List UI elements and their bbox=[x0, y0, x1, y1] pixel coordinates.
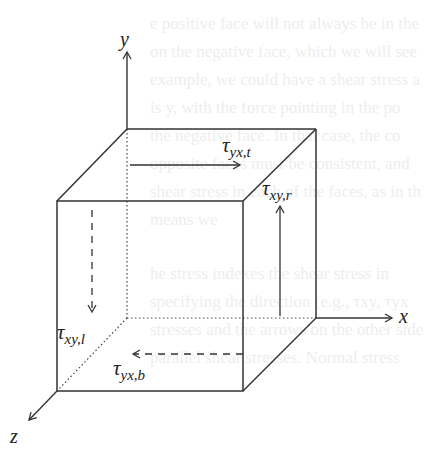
y-axis-label: y bbox=[120, 28, 129, 51]
stress-cube-diagram bbox=[0, 0, 430, 468]
tau-xy-r-label: τxy,r bbox=[262, 176, 292, 201]
x-axis-label: x bbox=[399, 305, 408, 328]
z-axis-label: z bbox=[10, 425, 18, 448]
axes bbox=[29, 52, 392, 420]
tau-yx-t-label: τyx,t bbox=[222, 133, 251, 158]
bottom-right-depth-edge bbox=[243, 318, 316, 391]
tau-yx-b-label: τyx,b bbox=[113, 356, 145, 381]
cube-edges bbox=[57, 129, 316, 391]
top-left-depth-edge bbox=[57, 129, 127, 201]
z-axis-arrow bbox=[29, 391, 57, 420]
tau-xy-l-label: τxy,l bbox=[57, 320, 85, 345]
